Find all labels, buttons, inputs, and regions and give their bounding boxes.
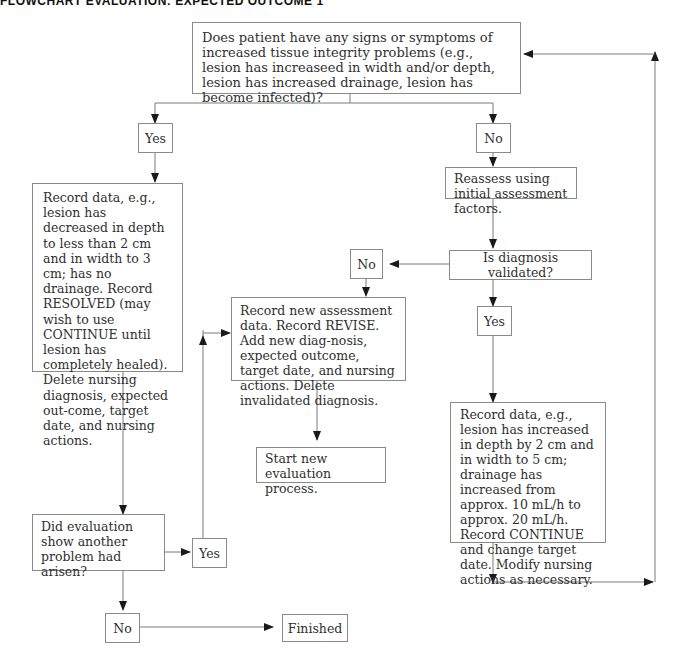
record-continue-box: Record data, e.g., lesion has increased … (450, 402, 606, 543)
question-signs-symptoms-box: Does patient have any signs or symptoms … (192, 22, 521, 94)
no-box-1: No (476, 123, 511, 153)
yes-box-2: Yes (477, 306, 512, 336)
yes-box-3: Yes (192, 538, 227, 568)
no-box-3: No (105, 613, 140, 643)
yes-box-1: Yes (138, 123, 173, 153)
reassess-box: Reassess using initial assessment factor… (445, 167, 577, 199)
question-validated-box: Is diagnosis validated? (449, 250, 592, 280)
record-revise-box: Record new assessment data. Record REVIS… (231, 297, 406, 381)
finished-box: Finished (282, 614, 348, 642)
no-box-2: No (350, 249, 383, 279)
record-resolved-box: Record data, e.g., lesion has decreased … (32, 183, 183, 372)
start-new-evaluation-box: Start new evaluation process. (256, 447, 386, 483)
question-another-problem-box: Did evaluation show another problem had … (32, 514, 165, 571)
